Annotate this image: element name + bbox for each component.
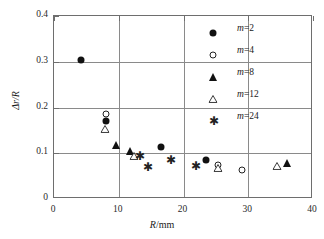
marker-filled-triangle-icon xyxy=(209,73,217,81)
data-point xyxy=(102,111,109,118)
y-axis-title: Δr/R xyxy=(10,66,21,136)
data-point xyxy=(238,166,245,173)
x-axis-tick xyxy=(248,16,249,21)
marker-asterisk-icon: ✱ xyxy=(143,162,152,171)
marker-filled-circle-icon xyxy=(210,30,217,37)
data-point xyxy=(202,157,209,164)
data-point: ✱ xyxy=(166,155,175,164)
scatter-chart-figure: ✱✱✱✱ R/mm Δr/R m=2m=4m=8m=12✱m=24 010203… xyxy=(0,0,324,239)
y-axis-tick xyxy=(54,153,59,154)
x-axis-tick xyxy=(119,16,120,21)
marker-open-triangle-icon xyxy=(208,95,217,103)
marker-open-triangle-icon xyxy=(213,164,222,172)
y-axis-tick-label: 0.4 xyxy=(22,9,48,19)
gridline-vertical xyxy=(184,16,185,197)
legend-item-m-4[interactable]: m=4 xyxy=(205,44,300,66)
x-axis-tick-label: 40 xyxy=(297,204,324,214)
gridline-vertical xyxy=(119,16,120,197)
x-axis-title: R/mm xyxy=(0,219,324,230)
data-point xyxy=(112,141,120,149)
x-axis-tick-label: 20 xyxy=(168,204,198,214)
x-axis-tick-label: 10 xyxy=(103,204,133,214)
legend-item-m-2[interactable]: m=2 xyxy=(205,22,300,44)
legend-item-m-8[interactable]: m=8 xyxy=(205,66,300,88)
data-point xyxy=(283,159,291,167)
legend-item-m-12[interactable]: m=12 xyxy=(205,88,300,110)
marker-open-circle-icon xyxy=(102,111,109,118)
data-point: ✱ xyxy=(143,162,152,171)
y-axis-tick-label: 0 xyxy=(22,192,48,202)
y-axis-tick xyxy=(54,62,59,63)
x-axis-tick-label: 30 xyxy=(232,204,262,214)
gridline-horizontal xyxy=(54,153,311,154)
legend-item-label: m=24 xyxy=(237,111,259,121)
marker-open-triangle-icon xyxy=(273,162,282,170)
y-axis-tick xyxy=(54,16,59,17)
legend-item-label: m=4 xyxy=(237,45,254,55)
marker-asterisk-icon: ✱ xyxy=(209,117,218,126)
marker-asterisk-icon: ✱ xyxy=(166,155,175,164)
marker-open-triangle-icon xyxy=(100,125,109,133)
legend-item-m-24[interactable]: ✱m=24 xyxy=(205,110,300,132)
marker-filled-circle-icon xyxy=(78,56,85,63)
marker-open-circle-icon xyxy=(238,166,245,173)
x-axis-tick xyxy=(184,16,185,21)
data-point xyxy=(157,144,164,151)
data-point xyxy=(100,125,109,133)
marker-filled-circle-icon xyxy=(202,157,209,164)
data-point xyxy=(78,56,85,63)
x-axis-tick xyxy=(313,16,314,21)
marker-filled-triangle-icon xyxy=(112,141,120,149)
legend-item-label: m=2 xyxy=(237,23,254,33)
marker-filled-triangle-icon xyxy=(283,159,291,167)
marker-asterisk-icon: ✱ xyxy=(191,162,200,171)
data-point: ✱ xyxy=(191,162,200,171)
legend-item-label: m=8 xyxy=(237,67,254,77)
x-axis-tick-label: 0 xyxy=(38,204,68,214)
data-point xyxy=(213,164,222,172)
y-axis-tick xyxy=(54,108,59,109)
marker-filled-circle-icon xyxy=(157,144,164,151)
y-axis-tick-label: 0.3 xyxy=(22,55,48,65)
y-axis-tick-label: 0.2 xyxy=(22,101,48,111)
data-point xyxy=(273,162,282,170)
y-axis-tick-label: 0.1 xyxy=(22,146,48,156)
legend-item-label: m=12 xyxy=(237,89,259,99)
chart-legend: m=2m=4m=8m=12✱m=24 xyxy=(205,22,300,132)
marker-open-circle-icon xyxy=(210,52,217,59)
